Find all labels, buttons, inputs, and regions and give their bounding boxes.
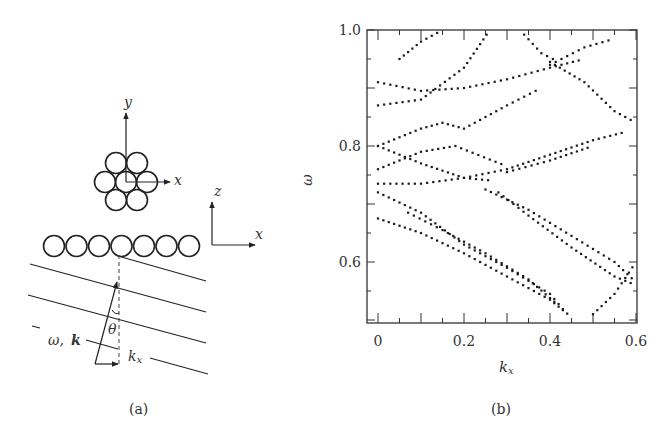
axis-tick-labels: 00.20.40.60.60.81.0 bbox=[339, 22, 647, 349]
side-z-label: z bbox=[213, 183, 222, 199]
x-tick-label: 0.4 bbox=[539, 333, 561, 349]
angle-arc-icon bbox=[112, 310, 119, 314]
theta-label: θ bbox=[108, 321, 117, 337]
top-y-label: y bbox=[123, 94, 133, 110]
plot-frame bbox=[367, 30, 637, 323]
side-view-axes bbox=[212, 202, 255, 245]
y-tick-label: 1.0 bbox=[339, 22, 361, 38]
x-tick-label: 0.6 bbox=[625, 333, 647, 349]
x-axis-label: kx bbox=[499, 358, 514, 376]
y-axis-label: ω bbox=[299, 174, 315, 186]
dispersion-points bbox=[377, 32, 634, 316]
caption-a: (a) bbox=[129, 401, 148, 417]
x-tick-label: 0 bbox=[374, 333, 383, 349]
k-vector-label: k bbox=[71, 332, 81, 348]
panel-b-chart: 00.20.40.60.60.81.0 ω kx (b) bbox=[299, 22, 647, 417]
side-x-label: x bbox=[255, 226, 263, 242]
y-tick-label: 0.6 bbox=[339, 254, 361, 270]
top-x-label: x bbox=[174, 172, 182, 188]
x-tick-label: 0.2 bbox=[453, 333, 475, 349]
wavefront-lines bbox=[28, 256, 208, 374]
axis-ticks bbox=[367, 30, 637, 323]
figure-canvas: y x z x bbox=[0, 0, 665, 438]
cylinder-row-side-view bbox=[44, 236, 200, 257]
omega-label: ω, bbox=[48, 332, 64, 348]
caption-b: (b) bbox=[491, 401, 511, 417]
y-tick-label: 0.8 bbox=[339, 138, 361, 154]
panel-a-diagram: y x z x bbox=[28, 94, 263, 417]
kx-label-a: kx bbox=[128, 348, 142, 365]
